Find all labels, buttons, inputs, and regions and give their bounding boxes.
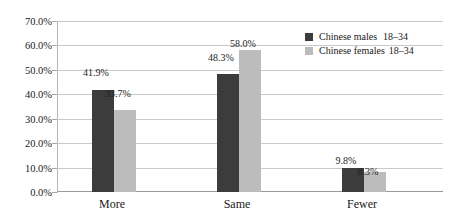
y-axis-label-20: 20.0% bbox=[4, 138, 52, 149]
legend-swatch-icon-females bbox=[305, 47, 313, 55]
x-axis-label-fewer: Fewer bbox=[317, 197, 407, 211]
legend-swatch-icon-males bbox=[305, 33, 313, 41]
data-label-fewer-females: 8.3% bbox=[342, 166, 394, 177]
legend-label-females: Chinese females bbox=[319, 45, 385, 57]
legend-age-females: 18–34 bbox=[389, 45, 414, 57]
y-axis-label-40: 40.0% bbox=[4, 89, 52, 100]
bar-more-females bbox=[114, 110, 136, 192]
y-axis-label-10: 10.0% bbox=[4, 163, 52, 174]
y-axis-label-70: 70.0% bbox=[4, 16, 52, 27]
data-label-more-females: 33.7% bbox=[92, 88, 144, 99]
bar-same-females bbox=[239, 50, 261, 192]
y-axis-label-0: 0.0% bbox=[4, 187, 52, 198]
y-axis-label-60: 60.0% bbox=[4, 40, 52, 51]
bar-chart: 70.0% 60.0% 50.0% 40.0% 30.0% 20.0% 10.0… bbox=[0, 0, 449, 222]
x-axis-label-more: More bbox=[67, 197, 157, 211]
legend-label-males: Chinese males bbox=[319, 31, 377, 43]
data-label-more-males: 41.9% bbox=[70, 67, 122, 78]
bar-same-males bbox=[217, 74, 239, 192]
data-label-same-males: 48.3% bbox=[195, 52, 247, 63]
legend-item-chinese-males: Chinese males 18–34 bbox=[305, 31, 414, 43]
x-axis-label-same: Same bbox=[192, 197, 282, 211]
data-label-fewer-males: 9.8% bbox=[320, 155, 372, 166]
y-axis-label-30: 30.0% bbox=[4, 114, 52, 125]
data-label-same-females: 58.0% bbox=[217, 38, 269, 49]
gridline-70 bbox=[57, 21, 443, 22]
legend: Chinese males 18–34 Chinese females 18–3… bbox=[305, 31, 414, 59]
bar-more-males bbox=[92, 90, 114, 192]
legend-age-males: 18–34 bbox=[383, 31, 408, 43]
y-axis-label-50: 50.0% bbox=[4, 65, 52, 76]
legend-item-chinese-females: Chinese females 18–34 bbox=[305, 45, 414, 57]
